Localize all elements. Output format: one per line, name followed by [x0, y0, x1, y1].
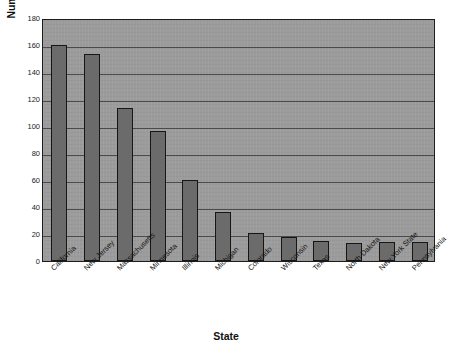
bar: [84, 54, 100, 261]
x-axis-title: State: [0, 330, 452, 342]
y-axis-tick-label: 60: [18, 177, 40, 185]
bar: [51, 45, 67, 261]
y-axis-tick-label: 100: [18, 123, 40, 131]
bars: [43, 20, 434, 261]
y-axis-tick-label: 180: [18, 15, 40, 23]
y-axis-tick-label: 40: [18, 204, 40, 212]
y-axis-tick-label: 160: [18, 42, 40, 50]
y-axis-tick-label: 80: [18, 150, 40, 158]
bar: [117, 108, 133, 261]
bar: [182, 180, 198, 261]
y-axis-tick-label: 20: [18, 231, 40, 239]
x-axis-tick-labels: CaliforniaNew JerseyMassachusettsMinneso…: [0, 262, 452, 332]
y-axis-title: Number of Observed Enacted Regulations: [4, 0, 18, 42]
y-axis-tick-labels: 180160140120100806040200: [18, 0, 40, 300]
bar-chart: Number of Observed Enacted Regulations 1…: [0, 0, 452, 354]
y-axis-tick-label: 140: [18, 69, 40, 77]
y-axis-tick-label: 120: [18, 96, 40, 104]
plot-area: [42, 19, 435, 262]
